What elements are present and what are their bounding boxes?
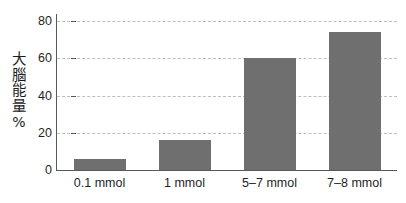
bar-chart: 大 腦 能 量 % 020406080 0.1 mmol1 mmol5–7 mm…	[0, 0, 406, 203]
x-axis-tick-labels: 0.1 mmol1 mmol5–7 mmol7–8 mmol	[57, 176, 397, 198]
x-axis-tick-label: 7–8 mmol	[312, 176, 397, 190]
y-axis-tick-label: 20	[26, 126, 52, 140]
y-axis-tick-label: 40	[26, 89, 52, 103]
x-axis-tick-label: 1 mmol	[142, 176, 227, 190]
y-axis-tick-label: 0	[26, 163, 52, 177]
bar	[74, 159, 126, 170]
bar	[159, 140, 211, 170]
x-axis-tick-label: 5–7 mmol	[227, 176, 312, 190]
y-axis-tick-label: 60	[26, 51, 52, 65]
x-axis-line	[56, 170, 397, 171]
bars-layer	[57, 14, 397, 170]
bar	[244, 58, 296, 170]
bar	[329, 32, 381, 170]
y-axis-tick-labels: 020406080	[20, 0, 52, 203]
x-axis-tick-label: 0.1 mmol	[57, 176, 142, 190]
y-axis-tick-label: 80	[26, 14, 52, 28]
